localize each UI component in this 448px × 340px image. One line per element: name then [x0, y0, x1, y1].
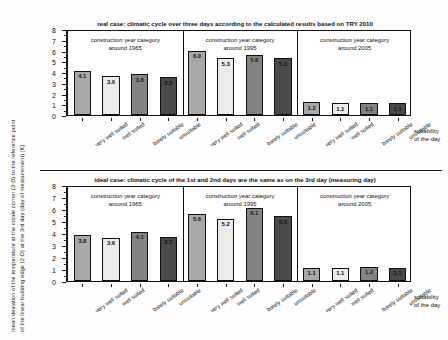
bar-value-label: 5.3 — [218, 61, 233, 68]
group-heading-line-1: construction year category — [297, 192, 412, 200]
y-tick-label-8: 8 — [38, 27, 56, 34]
x-axis-title: suitabilityof the day — [414, 294, 440, 309]
y-tick-3 — [62, 84, 66, 85]
y-tick-minor — [64, 100, 66, 101]
bar: 1.1 — [389, 268, 406, 281]
bar: 1.2 — [360, 267, 377, 281]
x-tick — [111, 118, 112, 121]
group-heading-line-2: around 1965 — [68, 44, 183, 52]
panel-title-ideal-case: ideal case: climatic cycle of the 1st an… — [26, 176, 444, 183]
group-heading-line-2: around 2005 — [297, 44, 412, 52]
group-heading-line-1: construction year category — [183, 192, 298, 200]
y-tick-label-2: 2 — [38, 91, 56, 98]
group-heading: construction year categoryaround 1965 — [68, 36, 183, 52]
bar-value-label: 3.6 — [103, 240, 118, 247]
bar: 3.6 — [102, 238, 119, 281]
y-tick-minor — [64, 276, 66, 277]
y-tick-label-6: 6 — [38, 48, 56, 55]
y-tick-7 — [62, 198, 66, 199]
y-tick-label-4: 4 — [38, 70, 56, 77]
x-tick — [398, 118, 399, 121]
y-tick-minor — [64, 68, 66, 69]
bar-value-label: 1.1 — [333, 270, 348, 277]
y-axis-title: mean deviation of the temperature at the… — [0, 0, 26, 340]
x-axis-title-line-2: of the day — [414, 302, 440, 310]
panel-ideal-case: ideal case: climatic cycle of the 1st an… — [26, 170, 448, 340]
y-tick-minor — [64, 46, 66, 47]
bar: 3.7 — [160, 237, 177, 281]
y-tick-label-0: 0 — [38, 113, 56, 120]
bar-value-label: 5.6 — [189, 216, 204, 223]
x-tick — [283, 118, 284, 121]
y-tick-label-6: 6 — [38, 207, 56, 214]
bar-value-label: 1.2 — [361, 269, 376, 276]
y-tick-minor — [64, 216, 66, 217]
bar-value-label: 3.5 — [161, 80, 176, 87]
bar: 6.0 — [188, 51, 205, 116]
y-tick-label-7: 7 — [38, 37, 56, 44]
bar: 1.1 — [332, 103, 349, 115]
x-tick — [82, 118, 83, 121]
y-tick-8 — [62, 186, 66, 187]
panel-divider — [40, 170, 442, 171]
bar-value-label: 3.6 — [103, 79, 118, 86]
bar: 4.1 — [74, 71, 91, 115]
x-tick — [398, 284, 399, 287]
bar: 5.4 — [274, 216, 291, 281]
bar: 5.2 — [217, 219, 234, 281]
y-tick-1 — [62, 270, 66, 271]
y-tick-4 — [62, 73, 66, 74]
y-tick-minor — [64, 78, 66, 79]
bar: 4.1 — [131, 232, 148, 281]
y-tick-5 — [62, 62, 66, 63]
bar: 1.1 — [332, 268, 349, 281]
bar: 5.3 — [274, 58, 291, 115]
x-tick — [82, 284, 83, 287]
x-tick — [168, 118, 169, 121]
y-tick-6 — [62, 210, 66, 211]
bar-value-label: 1.1 — [390, 106, 405, 113]
bar-value-label: 5.2 — [218, 221, 233, 228]
bar: 3.8 — [74, 235, 91, 281]
y-tick-3 — [62, 246, 66, 247]
y-tick-8 — [62, 30, 66, 31]
bar-value-label: 6.1 — [247, 210, 262, 217]
bar: 5.6 — [246, 55, 263, 115]
bar-value-label: 3.7 — [161, 239, 176, 246]
bar: 6.1 — [246, 208, 263, 281]
group-heading-line-1: construction year category — [68, 36, 183, 44]
group-heading-line-2: around 1965 — [68, 200, 183, 208]
y-tick-5 — [62, 222, 66, 223]
x-axis-title-line-1: suitability — [414, 128, 440, 136]
y-tick-0 — [62, 116, 66, 117]
x-tick — [254, 284, 255, 287]
y-tick-4 — [62, 234, 66, 235]
x-tick — [340, 118, 341, 121]
y-axis-title-line-2: of the linear building edge (2-D) at the… — [19, 145, 25, 332]
y-tick-label-0: 0 — [38, 279, 56, 286]
group-heading-line-1: construction year category — [68, 192, 183, 200]
bar: 3.5 — [160, 77, 177, 115]
bar-value-label: 3.8 — [75, 238, 90, 245]
bar: 3.6 — [102, 76, 119, 115]
y-tick-label-3: 3 — [38, 243, 56, 250]
y-axis-top: 012345678 — [59, 30, 67, 116]
group-heading-line-2: around 1995 — [183, 200, 298, 208]
y-tick-0 — [62, 282, 66, 283]
bar-value-label: 4.1 — [75, 73, 90, 80]
y-axis-bottom: 012345678 — [59, 186, 67, 282]
group-heading: construction year categoryaround 1965 — [68, 192, 183, 208]
bar: 1.2 — [303, 102, 320, 115]
x-axis-title: suitabilityof the day — [414, 128, 440, 143]
bar-value-label: 4.1 — [132, 234, 147, 241]
bar-value-label: 6.0 — [189, 53, 204, 60]
group-heading: construction year categoryaround 1995 — [183, 192, 298, 208]
x-tick — [111, 284, 112, 287]
y-tick-label-7: 7 — [38, 195, 56, 202]
y-tick-label-3: 3 — [38, 80, 56, 87]
x-tick — [168, 284, 169, 287]
y-tick-label-5: 5 — [38, 219, 56, 226]
bar: 1.1 — [360, 103, 377, 115]
y-tick-minor — [64, 252, 66, 253]
y-tick-2 — [62, 95, 66, 96]
